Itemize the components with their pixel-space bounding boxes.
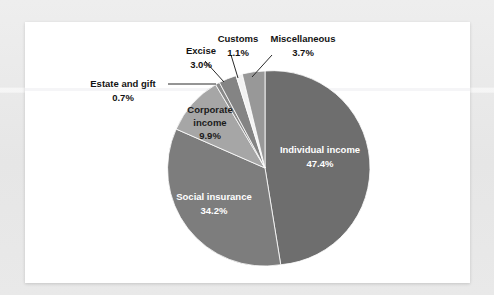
pie-label-individual-income: Individual income [280,144,360,155]
leader-line-customs [231,55,238,78]
pie-slices [168,71,370,266]
pie-label-corporate-income-line1: Corporate [187,104,232,115]
pie-label-estate-and-gift: Estate and gift [90,78,156,89]
pie-label-miscellaneous: Miscellaneous [271,33,336,44]
pie-value-excise: 3.0% [190,59,212,70]
pie-value-estate-and-gift: 0.7% [112,92,134,103]
pie-value-customs: 1.1% [227,47,249,58]
pie-label-corporate-income-line2: income [193,117,226,128]
pie-chart: Individual income 47.4% Social insurance… [25,22,470,283]
pie-value-individual-income: 47.4% [307,158,334,169]
pie-chart-svg: Individual income 47.4% Social insurance… [25,22,470,283]
chart-card: Individual income 47.4% Social insurance… [25,22,470,283]
pie-value-corporate-income: 9.9% [199,130,221,141]
pie-label-social-insurance: Social insurance [176,191,252,202]
pie-value-miscellaneous: 3.7% [292,47,314,58]
pie-label-excise: Excise [186,45,216,56]
pie-value-social-insurance: 34.2% [201,205,228,216]
pie-label-customs: Customs [218,33,259,44]
